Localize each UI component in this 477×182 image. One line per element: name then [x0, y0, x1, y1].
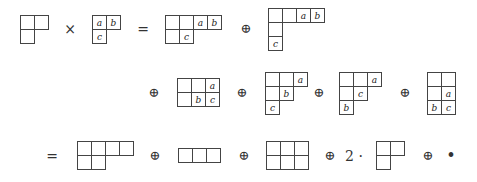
tableau-cell: [339, 86, 354, 101]
tableau-cell: [119, 141, 134, 156]
operator-plus7: ⊕: [239, 149, 250, 163]
tableau-cell: b: [191, 92, 206, 107]
tableau-cell: [376, 155, 391, 170]
tableau-cell: a: [367, 72, 382, 87]
tableau-cell: a: [296, 8, 311, 23]
tableau-cell: a: [92, 15, 107, 30]
operator-plus2: ⊕: [149, 86, 160, 100]
tableau-cell: c: [179, 29, 194, 44]
tableau-cell: [265, 72, 280, 87]
tableau-cell: [91, 155, 106, 170]
tableau-cell: b: [279, 86, 294, 101]
tableau-cell: [192, 148, 207, 163]
tableau-cell: [165, 29, 180, 44]
tableau-cell: b: [427, 100, 442, 115]
tableau-cell: [206, 148, 221, 163]
tableau-cell: [282, 8, 297, 23]
operator-bullet: •: [446, 149, 455, 163]
tableau-cell: c: [353, 86, 368, 101]
tableau-cell: c: [268, 36, 283, 51]
tableau-cell: [294, 155, 309, 170]
tableau-cell: b: [339, 100, 354, 115]
operator-coef2: 2 ·: [345, 149, 363, 163]
tableau-cell: [77, 141, 92, 156]
tableau-cell: [266, 141, 281, 156]
tableau-cell: [427, 72, 442, 87]
tableau-cell: [20, 15, 35, 30]
tableau-cell: [294, 141, 309, 156]
tableau-cell: [265, 86, 280, 101]
operator-plus8: ⊕: [325, 149, 336, 163]
operator-plus1: ⊕: [241, 22, 252, 36]
tableau-cell: b: [106, 15, 121, 30]
tableau-cell: [427, 86, 442, 101]
tableau-cell: [191, 78, 206, 93]
tableau-cell: [105, 141, 120, 156]
operator-plus6: ⊕: [150, 149, 161, 163]
tableau-cell: [376, 141, 391, 156]
tableau-cell: c: [92, 29, 107, 44]
tableau-cell: [280, 141, 295, 156]
tableau-cell: c: [265, 100, 280, 115]
operator-plus4: ⊕: [314, 86, 325, 100]
operator-plus9: ⊕: [423, 149, 434, 163]
tableau-cell: [280, 155, 295, 170]
tableau-cell: [266, 155, 281, 170]
tableau-cell: [77, 155, 92, 170]
tableau-cell: [390, 141, 405, 156]
tableau-cell: c: [205, 92, 220, 107]
tableau-cell: b: [310, 8, 325, 23]
tableau-cell: a: [193, 15, 208, 30]
tableau-cell: [177, 78, 192, 93]
tableau-cell: [165, 15, 180, 30]
tableau-cell: [34, 15, 49, 30]
operator-times: ×: [64, 22, 76, 36]
tableau-cell: [268, 8, 283, 23]
tableau-cell: [179, 15, 194, 30]
tableau-cell: [353, 72, 368, 87]
operator-plus3: ⊕: [237, 86, 248, 100]
tableau-cell: [279, 72, 294, 87]
tableau-cell: [268, 22, 283, 37]
tableau-cell: [178, 148, 193, 163]
tableau-cell: [441, 72, 456, 87]
operator-eq1: =: [137, 22, 149, 36]
tableau-cell: a: [293, 72, 308, 87]
tableau-cell: a: [441, 86, 456, 101]
tableau-cell: [177, 92, 192, 107]
operator-plus5: ⊕: [400, 86, 411, 100]
tableau-cell: a: [205, 78, 220, 93]
tableau-cell: [20, 29, 35, 44]
tableau-cell: b: [207, 15, 222, 30]
tableau-cell: [91, 141, 106, 156]
tableau-cell: [339, 72, 354, 87]
operator-eq2: =: [46, 149, 58, 163]
tableau-cell: c: [441, 100, 456, 115]
